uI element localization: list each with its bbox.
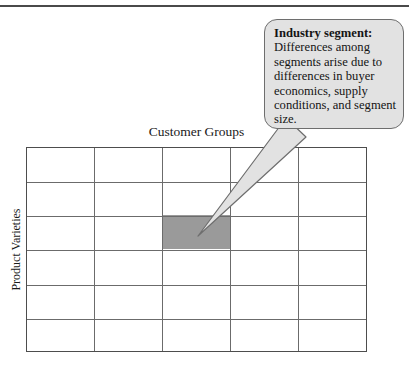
callout-body: Differences among segments arise due to … xyxy=(274,40,402,126)
callout-text: Industry segment: Differences among segm… xyxy=(274,26,402,127)
y-axis-label: Product Varieties xyxy=(9,190,24,310)
callout-title: Industry segment: xyxy=(274,26,402,40)
grid-outline xyxy=(26,147,367,352)
figure-top-rule xyxy=(0,5,409,7)
segmentation-matrix-figure: Customer Groups Product Varieties Indust… xyxy=(0,0,409,373)
segmentation-matrix-grid xyxy=(26,147,367,352)
